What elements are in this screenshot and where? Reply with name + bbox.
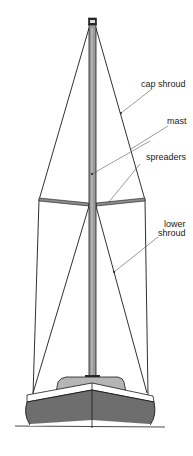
label-spreaders: spreaders [146,152,186,162]
spreader-right [96,198,145,206]
label-lower-shroud-line2: shroud [158,228,186,238]
leader-dot-cap-shroud [120,112,122,114]
leader-mast [131,126,168,149]
leader-dot-mast [91,173,93,175]
label-mast: mast [167,116,187,126]
cap-shroud-right-lower [145,200,148,395]
cap-shroud-right-upper [96,28,145,200]
cap-shroud-left-upper [39,28,89,200]
leader-lower-shroud [114,237,158,272]
leader-mast-2 [92,141,150,174]
lower-shroud-right [96,206,147,393]
leader-dot-lower-shroud [113,271,115,273]
masthead-sheave [90,20,95,23]
waterline [15,426,165,427]
cap-shroud-left-lower [33,200,39,395]
leader-spreaders [108,164,140,203]
leader-cap-shroud [121,89,152,113]
lower-shroud-left [33,206,89,393]
label-cap-shroud: cap shroud [141,79,186,89]
spreader-left [39,198,89,206]
